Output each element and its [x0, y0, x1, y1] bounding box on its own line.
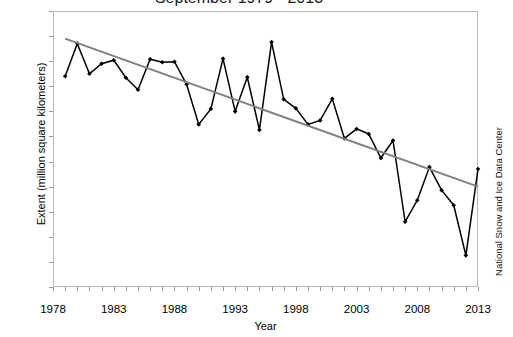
x-tick-mark [332, 287, 333, 291]
x-tick-mark [199, 287, 200, 291]
data-line [65, 42, 478, 255]
x-tick-mark [478, 287, 479, 291]
data-point-marker [245, 75, 250, 80]
x-tick-mark [211, 287, 212, 291]
x-tick-label: 1993 [222, 303, 248, 315]
x-tick-mark [174, 287, 175, 291]
data-point-marker [257, 128, 262, 133]
x-tick-label: 1978 [40, 303, 66, 315]
x-tick-mark [393, 287, 394, 291]
chart-credit: National Snow and Ice Data Center [493, 87, 504, 317]
data-point-marker [160, 60, 165, 65]
x-tick-mark [284, 287, 285, 291]
chart-lines [53, 11, 478, 287]
x-tick-mark [235, 287, 236, 291]
x-tick-mark [89, 287, 90, 291]
x-tick-mark [381, 287, 382, 291]
data-point-marker [233, 109, 238, 114]
x-tick-label: 2003 [344, 303, 370, 315]
x-tick-mark [114, 287, 115, 291]
x-tick-label: 1998 [283, 303, 309, 315]
x-tick-label: 2008 [404, 303, 430, 315]
y-axis-label: Extent (million square kilometers) [35, 19, 47, 269]
data-point-marker [148, 57, 153, 62]
data-point-marker [476, 167, 481, 172]
x-tick-mark [77, 287, 78, 291]
x-tick-mark [65, 287, 66, 291]
x-tick-mark [429, 287, 430, 291]
x-tick-mark [138, 287, 139, 291]
x-tick-mark [187, 287, 188, 291]
x-tick-mark [454, 287, 455, 291]
plot-area: 3.03.54.04.55.05.56.06.57.07.58.08.5 197… [53, 11, 478, 287]
x-tick-mark [126, 287, 127, 291]
x-tick-mark [320, 287, 321, 291]
x-tick-mark [369, 287, 370, 291]
data-point-marker [464, 253, 469, 258]
x-tick-mark [442, 287, 443, 291]
chart-container: September 1979 - 2013 Extent (million sq… [0, 0, 513, 337]
x-tick-label: 2013 [465, 303, 491, 315]
x-tick-mark [162, 287, 163, 291]
x-tick-mark [102, 287, 103, 291]
x-tick-mark [259, 287, 260, 291]
x-tick-mark [150, 287, 151, 291]
chart-title: September 1979 - 2013 [0, 0, 478, 7]
x-tick-mark [344, 287, 345, 291]
x-tick-mark [247, 287, 248, 291]
x-tick-mark [405, 287, 406, 291]
data-point-marker [221, 56, 226, 61]
x-tick-label: 1988 [162, 303, 188, 315]
data-point-marker [63, 74, 68, 79]
data-point-marker [269, 40, 274, 45]
x-axis-label: Year [53, 320, 478, 332]
x-tick-mark [53, 287, 54, 291]
x-tick-mark [223, 287, 224, 291]
trend-line [65, 39, 478, 187]
x-tick-label: 1983 [101, 303, 127, 315]
x-tick-mark [417, 287, 418, 291]
x-tick-mark [308, 287, 309, 291]
x-tick-mark [296, 287, 297, 291]
x-tick-mark [272, 287, 273, 291]
x-tick-mark [466, 287, 467, 291]
x-tick-mark [357, 287, 358, 291]
